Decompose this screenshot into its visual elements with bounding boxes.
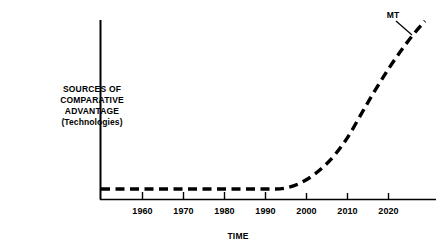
chart-container: 1960 1970 1980 1990 2000 2010 2020 TIME …: [0, 0, 441, 251]
x-tick-label-2000: 2000: [296, 206, 316, 216]
x-tick-label-1990: 1990: [255, 206, 275, 216]
annotation-label-mt: MT: [387, 10, 400, 20]
y-axis-title-line-2: COMPARATIVE: [60, 95, 124, 105]
x-tick-label-1960: 1960: [132, 206, 152, 216]
y-axis-title-line-4: (Technologies): [61, 117, 122, 127]
x-tick-label-1970: 1970: [173, 206, 193, 216]
y-axis-title-line-1: SOURCES OF: [63, 84, 121, 94]
x-tick-label-2010: 2010: [337, 206, 357, 216]
y-axis-title-line-3: ADVANTAGE: [65, 106, 120, 116]
x-axis-title: TIME: [227, 231, 248, 241]
x-tick-label-2020: 2020: [378, 206, 398, 216]
x-tick-label-1980: 1980: [214, 206, 234, 216]
line-chart-figure: 1960 1970 1980 1990 2000 2010 2020 TIME …: [0, 0, 441, 251]
